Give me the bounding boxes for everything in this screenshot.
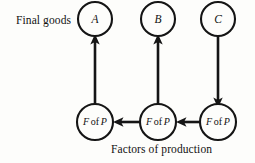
node-fop-right-label-of: of [214, 116, 223, 127]
node-A-label: A [90, 13, 99, 25]
node-fop-middle-label: FofP [145, 116, 170, 127]
edge-fop-middle-to-B [153, 34, 162, 104]
node-fop-left[interactable]: FofP [77, 104, 113, 140]
node-fop-right-label-p: P [223, 116, 230, 127]
factors-of-production-label: Factors of production [111, 144, 212, 156]
node-C[interactable]: C [201, 2, 235, 36]
edge-C-to-fop-right [213, 36, 222, 108]
node-fop-right-label-f: F [205, 116, 213, 127]
edge-fop-middle-to-fop-left [113, 117, 140, 126]
final-goods-label: Final goods [16, 15, 71, 27]
node-fop-middle[interactable]: FofP [140, 104, 176, 140]
node-fop-right-label: FofP [205, 116, 230, 127]
edge-fop-right-to-fop-middle [176, 117, 200, 126]
node-fop-middle-label-of: of [154, 116, 163, 127]
node-fop-left-label-f: F [82, 116, 90, 127]
node-fop-middle-label-p: P [163, 116, 170, 127]
node-fop-left-label: FofP [82, 116, 107, 127]
node-fop-right[interactable]: FofP [200, 104, 236, 140]
node-fop-left-label-of: of [91, 116, 100, 127]
node-C-label: C [214, 13, 222, 25]
node-B-label: B [154, 13, 161, 25]
edge-fop-left-to-A [90, 34, 99, 104]
node-fop-left-label-p: P [100, 116, 107, 127]
node-B[interactable]: B [141, 2, 175, 36]
node-A[interactable]: A [78, 2, 112, 36]
node-fop-middle-label-f: F [145, 116, 153, 127]
diagram-root: A B C FofP FofP FofP [0, 0, 255, 163]
